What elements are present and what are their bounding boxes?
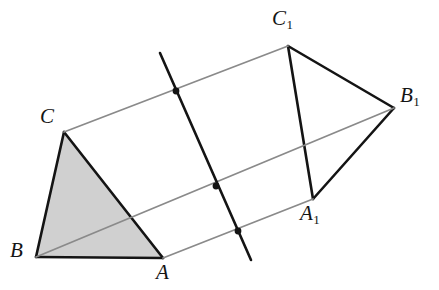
edge-A-B xyxy=(36,257,163,258)
vertex-label-C1-subscript: 1 xyxy=(287,17,294,32)
vertex-label-B1-subscript: 1 xyxy=(413,94,420,109)
intersection-on-AA1 xyxy=(235,228,242,235)
vertex-label-B: B xyxy=(10,240,23,261)
edge-B1-C1 xyxy=(288,46,394,108)
vertex-label-A-text: A xyxy=(156,260,169,284)
vertex-label-C1-text: C xyxy=(272,6,286,30)
vertex-label-A1: A1 xyxy=(300,203,320,226)
vertex-label-C-text: C xyxy=(40,104,54,128)
edge-C1-A1 xyxy=(288,46,313,199)
vertex-label-B1: B1 xyxy=(400,85,420,108)
prism-diagram: ABCA1B1C1 xyxy=(0,0,439,290)
vertex-label-A: A xyxy=(156,262,169,283)
vertex-label-B-text: B xyxy=(10,238,23,262)
vertex-label-A1-text: A xyxy=(300,201,313,225)
vertex-label-C: C xyxy=(40,106,54,127)
front-triangle-ABC xyxy=(36,132,163,258)
diagram-canvas xyxy=(0,0,439,290)
vertex-label-C1: C1 xyxy=(272,8,293,31)
vertex-label-B1-text: B xyxy=(400,83,413,107)
intersection-on-BB1 xyxy=(213,183,220,190)
edge-A1-B1 xyxy=(313,108,394,199)
shaded-faces-group xyxy=(36,132,163,258)
vertex-label-A1-subscript: 1 xyxy=(313,212,320,227)
intersection-on-CC1 xyxy=(173,88,180,95)
